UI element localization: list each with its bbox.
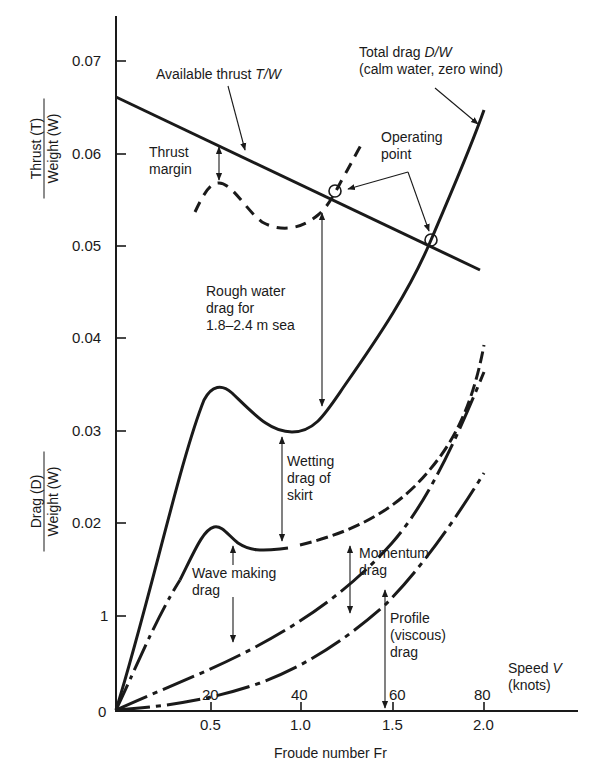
y-ticks bbox=[116, 61, 126, 616]
y-axis-title-drag: Drag (D) Weight (W) bbox=[28, 452, 61, 552]
x-tick-0.5: 0.5 bbox=[200, 716, 221, 733]
profile-drag-label: Profile (viscous) drag bbox=[390, 610, 446, 661]
thrust-margin-label: Thrust margin bbox=[149, 144, 192, 178]
momentum-drag-label: Momentum drag bbox=[359, 545, 429, 579]
y-tick-0.02: 0.02 bbox=[72, 514, 101, 531]
x-tick-1.5: 1.5 bbox=[382, 716, 403, 733]
y-tick-0.05: 0.05 bbox=[72, 237, 101, 254]
rough-water-drag-curve bbox=[195, 140, 364, 228]
available-thrust-pointer bbox=[228, 86, 245, 150]
available-thrust-label: Available thrust T/W bbox=[156, 66, 281, 83]
operating-point-marker-1 bbox=[329, 185, 341, 197]
wetting-drag-label: Wetting drag of skirt bbox=[287, 453, 334, 504]
y-tick-0: 0 bbox=[98, 703, 106, 720]
y-axis-title-thrust: Thrust (T) Weight (W) bbox=[28, 99, 61, 199]
y-tick-0.03: 0.03 bbox=[72, 422, 101, 439]
y-tick-0.06: 0.06 bbox=[72, 145, 101, 162]
x-axis-title: Froude number Fr bbox=[274, 745, 387, 762]
operating-point-pointer-2 bbox=[408, 172, 429, 231]
wave-making-drag-label: Wave making drag bbox=[192, 565, 276, 599]
available-thrust-line bbox=[116, 97, 480, 270]
x-tick-1.0: 1.0 bbox=[290, 716, 311, 733]
y-tick-0.04: 0.04 bbox=[72, 329, 101, 346]
total-drag-label: Total drag D/W (calm water, zero wind) bbox=[359, 44, 503, 78]
x-tick-2.0: 2.0 bbox=[473, 716, 494, 733]
operating-point-label: Operating point bbox=[381, 129, 442, 163]
knots-tick-40: 40 bbox=[291, 686, 308, 703]
knots-tick-80: 80 bbox=[474, 686, 491, 703]
y-tick-0.07: 0.07 bbox=[72, 52, 101, 69]
knots-tick-60: 60 bbox=[389, 686, 406, 703]
rough-water-label: Rough water drag for 1.8–2.4 m sea bbox=[206, 283, 295, 334]
total-drag-pointer bbox=[435, 88, 478, 124]
y-tick-0.01: 1 bbox=[100, 607, 108, 624]
speed-axis-title: Speed V (knots) bbox=[508, 660, 562, 694]
x-ticks bbox=[211, 702, 484, 711]
operating-point-pointer-1 bbox=[348, 172, 408, 189]
knots-tick-20: 20 bbox=[202, 686, 219, 703]
